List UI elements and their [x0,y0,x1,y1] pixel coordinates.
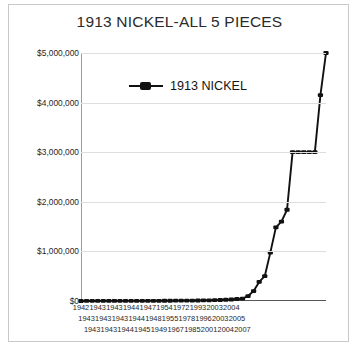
data-point-marker [284,208,289,212]
x-label-row: 1943194319441945194919671985200120042007 [81,325,326,336]
data-point-marker [318,93,323,97]
data-point-marker [279,220,284,224]
gridline [81,103,326,104]
data-point-marker [245,294,250,298]
x-tick-label: 1943 [89,303,105,312]
x-tick-label: 2003 [206,303,222,312]
data-point-marker [240,297,245,301]
y-tick-label: $5,000,000 [11,48,79,58]
x-tick-label: 1943 [78,314,94,323]
x-tick-label: 1967 [167,325,183,334]
data-point-marker [223,298,228,302]
data-point-marker [257,280,262,284]
x-tick-label: 1943 [101,325,117,334]
data-point-marker [184,299,189,303]
data-point-marker [212,298,217,302]
legend-label: 1913 NICKEL [170,79,247,93]
gridline [81,53,326,54]
x-tick-label: 1949 [151,325,167,334]
x-tick-label: 1943 [95,314,111,323]
x-tick-label: 1985 [184,325,200,334]
data-point-marker [201,299,206,303]
x-tick-label: 1943 [106,303,122,312]
data-point-marker [273,225,278,229]
chart-title: 1913 NICKEL-ALL 5 PIECES [9,13,350,31]
chart-legend: 1913 NICKEL [129,79,247,93]
x-tick-label: 2007 [234,325,250,334]
y-tick-label: $4,000,000 [11,98,79,108]
x-tick-label: 1993 [190,303,206,312]
x-tick-label: 2001 [201,325,217,334]
data-point-marker [234,297,239,301]
gridline [81,251,326,252]
x-tick-label: 1944 [128,314,144,323]
x-tick-label: 1944 [117,325,133,334]
x-tick-label: 1944 [123,303,139,312]
data-point-marker [206,298,211,302]
legend-marker-icon [129,81,163,91]
y-tick-label: $0 [11,296,79,306]
x-tick-label: 2004 [223,303,239,312]
x-tick-label: 1948 [145,314,161,323]
x-tick-label: 1947 [140,303,156,312]
x-tick-label: 2004 [218,325,234,334]
x-tick-label: 1955 [162,314,178,323]
x-tick-label: 1942 [73,303,89,312]
gridline [81,202,326,203]
x-tick-label: 1978 [179,314,195,323]
y-tick-label: $1,000,000 [11,246,79,256]
x-tick-label: 2003 [212,314,228,323]
x-axis-labels: 1942194319431944194719541972199320032004… [81,303,326,345]
gridline [81,152,326,153]
y-tick-label: $2,000,000 [11,197,79,207]
y-axis-labels: $0$1,000,000$2,000,000$3,000,000$4,000,0… [9,53,79,301]
x-tick-label: 1996 [195,314,211,323]
y-tick-label: $3,000,000 [11,147,79,157]
data-point-marker [229,298,234,302]
data-point-marker [179,299,184,303]
x-tick-label: 1972 [173,303,189,312]
x-tick-label: 1954 [156,303,172,312]
x-tick-label: 1943 [112,314,128,323]
data-point-marker [195,299,200,303]
data-point-marker [251,289,256,293]
chart-frame: 1913 NICKEL-ALL 5 PIECES $0$1,000,000$2,… [8,4,349,342]
x-tick-label: 2005 [229,314,245,323]
x-label-row: 1943194319431944194819551978199620032005 [81,314,326,325]
data-point-marker [262,274,267,278]
x-tick-label: 1943 [84,325,100,334]
data-point-marker [190,299,195,303]
data-point-marker [218,298,223,302]
x-label-row: 1942194319431944194719541972199320032004 [81,303,326,314]
x-tick-label: 1945 [134,325,150,334]
